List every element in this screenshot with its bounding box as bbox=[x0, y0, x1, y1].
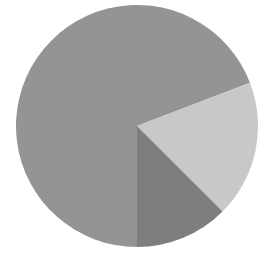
pie-chart-svg bbox=[0, 0, 272, 254]
pie-chart-figure bbox=[0, 0, 272, 254]
pie-slices-group bbox=[16, 5, 258, 247]
